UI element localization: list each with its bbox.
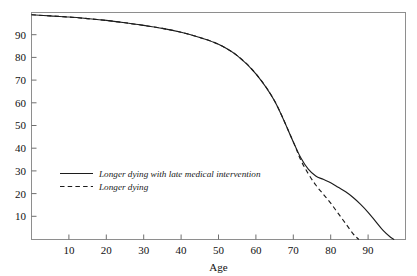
- y-axis-tick-labels: 10 20 30 40 50 60 70 80 90: [15, 29, 27, 223]
- x-tick-label: 20: [101, 244, 113, 256]
- x-tick-label: 50: [213, 244, 225, 256]
- y-tick-label: 90: [15, 29, 27, 41]
- y-tick-label: 70: [15, 74, 27, 86]
- y-tick-label: 10: [15, 210, 27, 222]
- y-tick-label: 50: [15, 119, 27, 131]
- x-tick-label: 90: [363, 244, 375, 256]
- x-tick-label: 30: [138, 244, 150, 256]
- x-axis-title: Age: [209, 261, 227, 273]
- y-tick-label: 60: [15, 97, 27, 109]
- x-tick-label: 60: [250, 244, 262, 256]
- x-tick-label: 80: [325, 244, 337, 256]
- y-tick-label: 40: [15, 142, 27, 154]
- survival-curve-chart: 10 20 30 40 50 60 70 80 90 10 20 30: [0, 0, 417, 276]
- x-tick-label: 70: [288, 244, 300, 256]
- legend-label-series-0: Longer dying with late medical intervent…: [98, 169, 261, 179]
- x-axis-tick-labels: 10 20 30 40 50 60 70 80 90: [63, 244, 374, 256]
- y-tick-label: 30: [15, 165, 27, 177]
- x-tick-label: 10: [63, 244, 75, 256]
- legend-label-series-1: Longer dying: [98, 182, 149, 192]
- y-tick-label: 80: [15, 51, 27, 63]
- y-tick-label: 20: [15, 188, 27, 200]
- chart-page: 10 20 30 40 50 60 70 80 90 10 20 30: [0, 0, 417, 276]
- x-tick-label: 40: [176, 244, 188, 256]
